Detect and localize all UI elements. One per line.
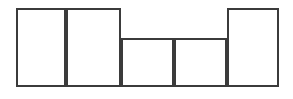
rectangle-bar-diagram (0, 0, 293, 99)
bar-rectangle-2 (67, 9, 120, 86)
figure-root (0, 0, 293, 99)
bar-rectangle-1 (17, 9, 65, 86)
bar-rectangle-4 (175, 39, 226, 86)
bar-rectangle-3 (122, 39, 173, 86)
bar-rectangle-5 (228, 9, 278, 86)
